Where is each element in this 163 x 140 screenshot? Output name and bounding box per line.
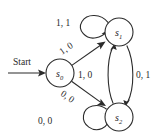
edge-s0-to-s2-line bbox=[72, 81, 101, 102]
label-edge-s0-to-s1: 1, 0 bbox=[57, 40, 75, 57]
self-loop-s2-path bbox=[83, 106, 107, 130]
edge-s0-to-s1-line bbox=[72, 45, 101, 65]
edge-s2-to-s1 bbox=[108, 43, 117, 104]
edge-s0-to-s1 bbox=[72, 42, 106, 66]
edge-s0-to-s2 bbox=[72, 81, 107, 106]
edge-s0-to-s1-arrow bbox=[97, 42, 106, 50]
label-self-loop-s1: 1, 1 bbox=[56, 18, 71, 28]
node-s0[interactable]: s0 bbox=[46, 59, 74, 87]
edge-s2-to-s1-path bbox=[108, 48, 113, 104]
state-machine-diagram: s0 s1 s2 Start 1, 1 1, 0 0, 0 1, 0 0, 1 … bbox=[0, 0, 163, 140]
node-s2[interactable]: s2 bbox=[105, 103, 133, 131]
node-s1[interactable]: s1 bbox=[105, 18, 133, 46]
self-loop-s1-path bbox=[80, 16, 108, 39]
label-edge-s0-to-s2: 0, 0 bbox=[59, 88, 77, 105]
label-edge-s2-to-s1: 1, 0 bbox=[78, 70, 93, 80]
start-label: Start bbox=[13, 57, 31, 67]
edge-s1-to-s2 bbox=[123, 45, 132, 107]
edge-s1-to-s2-path bbox=[127, 45, 133, 102]
fsm-canvas: s0 s1 s2 Start 1, 1 1, 0 0, 0 1, 0 0, 1 … bbox=[0, 0, 163, 140]
label-edge-s1-to-s2: 0, 1 bbox=[136, 70, 151, 80]
label-self-loop-s2: 0, 0 bbox=[38, 116, 53, 126]
start-arrow bbox=[8, 69, 46, 76]
